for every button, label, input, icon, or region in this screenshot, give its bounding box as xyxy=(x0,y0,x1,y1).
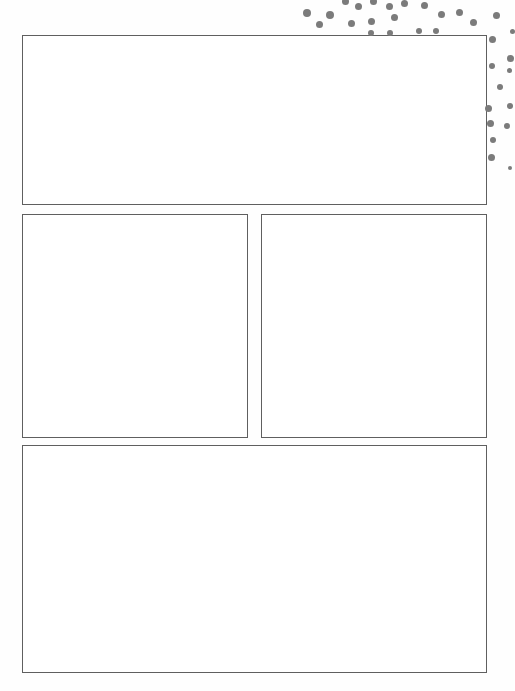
dot xyxy=(433,28,439,34)
dot xyxy=(489,63,495,69)
dot xyxy=(507,55,514,62)
dot xyxy=(508,166,512,170)
dot xyxy=(490,137,496,143)
dot xyxy=(456,9,463,16)
dot xyxy=(510,29,515,34)
dot xyxy=(489,36,496,43)
panel-middle-left xyxy=(22,214,248,438)
dot xyxy=(416,28,422,34)
dot xyxy=(504,123,510,129)
panel-bottom-wide xyxy=(22,445,487,673)
dot xyxy=(326,11,334,19)
dot xyxy=(421,2,428,9)
dot xyxy=(497,84,503,90)
dot xyxy=(386,3,393,10)
dot xyxy=(316,21,323,28)
dot xyxy=(507,68,512,73)
panel-middle-right xyxy=(261,214,487,438)
dot xyxy=(391,14,398,21)
dot xyxy=(342,0,349,5)
dot xyxy=(438,11,445,18)
dot xyxy=(507,103,513,109)
dot xyxy=(488,154,495,161)
dot xyxy=(487,120,494,127)
panel-top-wide xyxy=(22,35,487,205)
dot xyxy=(370,0,377,5)
dot xyxy=(368,18,375,25)
dot xyxy=(355,3,362,10)
dot xyxy=(493,12,500,19)
dot xyxy=(470,19,477,26)
dot xyxy=(303,9,311,17)
dot xyxy=(401,0,408,7)
dot xyxy=(348,20,355,27)
